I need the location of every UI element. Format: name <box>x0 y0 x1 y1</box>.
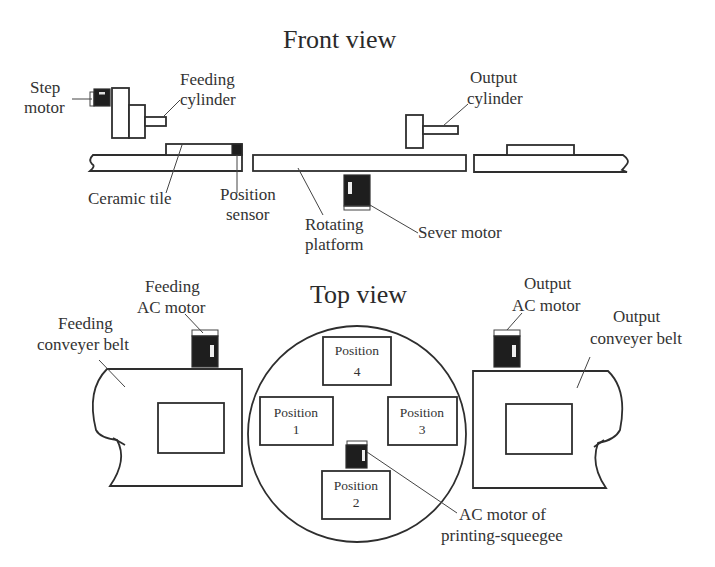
output-ac-motor-label-1: Output <box>524 274 572 293</box>
front-view-title: Front view <box>283 25 397 54</box>
feeding-cylinder-label-1: Feeding <box>180 70 235 89</box>
output-ac-motor <box>494 313 522 367</box>
feeding-ac-motor <box>185 314 218 367</box>
feeding-conveyer-belt-top <box>93 360 242 486</box>
feeding-cylinder-label-2: cylinder <box>180 90 236 109</box>
ceramic-tile-printing-system-diagram: Front view Step motor Feeding cylinder O… <box>0 0 715 567</box>
step-motor-label-1: Step <box>30 78 60 97</box>
output-conveyer-belt-label-2: conveyer belt <box>590 329 682 348</box>
output-conveyer-belt-top <box>473 357 622 488</box>
output-conveyer-belt-label-1: Output <box>613 307 661 326</box>
output-ac-motor-label-2: AC motor <box>512 296 581 315</box>
feeding-ac-motor-label-2: AC motor <box>137 298 206 317</box>
output-cylinder-label-2: cylinder <box>467 89 523 108</box>
position-2-label: Position <box>334 478 379 493</box>
squeegee-ac-motor-label-1: AC motor of <box>459 505 546 524</box>
position-2-box: Position 2 <box>322 471 390 519</box>
position-4-number: 4 <box>354 364 361 379</box>
rotating-platform-label-2: platform <box>305 235 364 254</box>
top-view-title: Top view <box>310 280 407 309</box>
position-1-label: Position <box>274 405 319 420</box>
position-1-number: 1 <box>293 422 300 437</box>
sever-motor-label: Sever motor <box>418 223 502 242</box>
position-3-box: Position 3 <box>388 397 457 445</box>
feeding-cylinder <box>112 88 180 138</box>
position-4-label: Position <box>335 343 380 358</box>
output-cylinder <box>406 104 468 148</box>
position-4-box: Position 4 <box>323 337 391 385</box>
step-motor-label-2: motor <box>24 98 65 117</box>
position-2-number: 2 <box>353 495 360 510</box>
ceramic-tile-label: Ceramic tile <box>88 189 172 208</box>
output-cylinder-label-1: Output <box>470 68 518 87</box>
position-sensor-label-2: sensor <box>226 205 270 224</box>
feeding-conveyer-belt-label-2: conveyer belt <box>37 335 129 354</box>
feeding-ac-motor-label-1: Feeding <box>145 277 200 296</box>
squeegee-ac-motor-label-2: printing-squeegee <box>441 526 563 545</box>
step-motor <box>72 89 110 106</box>
rotating-platform-label-1: Rotating <box>305 215 364 234</box>
position-sensor-label-1: Position <box>220 185 276 204</box>
output-conveyor-front <box>474 145 628 172</box>
feeding-conveyer-belt-label-1: Feeding <box>58 314 113 333</box>
position-3-label: Position <box>400 405 445 420</box>
position-3-number: 3 <box>419 422 426 437</box>
position-1-box: Position 1 <box>260 397 333 445</box>
